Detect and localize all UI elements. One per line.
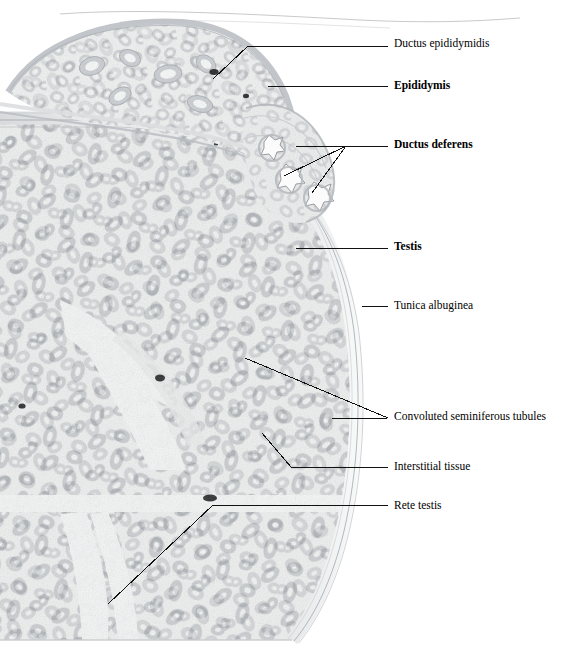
label-rete-testis: Rete testis [394,500,442,512]
label-epididymis: Epididymis [394,80,450,92]
label-tunica-albuginea: Tunica albuginea [394,300,473,312]
label-convoluted-seminiferous-tubules: Convoluted seminiferous tubules [394,411,546,423]
label-interstitial-tissue: Interstitial tissue [394,461,470,473]
figure-page: Ductus epididymidisEpididymisDuctus defe… [0,0,563,670]
histology-plate [0,0,563,670]
label-ductus-epididymidis: Ductus epididymidis [394,38,490,50]
label-testis: Testis [394,241,422,253]
label-ductus-deferens: Ductus deferens [394,139,473,151]
